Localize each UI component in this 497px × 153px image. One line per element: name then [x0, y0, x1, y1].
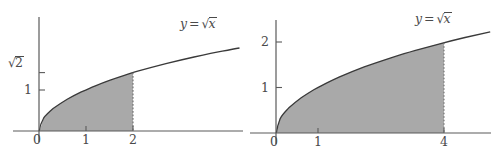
curve-label-equals: = — [422, 11, 436, 26]
right-panel-plot — [247, 0, 497, 153]
right-xtick-label-1: 1 — [314, 136, 322, 149]
sqrt-area-figure: √2 1 0 1 2 y=√x — [0, 0, 497, 153]
radicand: 2 — [15, 56, 24, 70]
right-curve-annotation: y=√x — [415, 12, 452, 26]
curve-label-lhs: y — [180, 16, 187, 31]
left-xtick-label-1: 1 — [82, 134, 90, 147]
left-shaded-region — [39, 73, 133, 131]
chart-panel-right: 2 1 0 1 4 y=√x — [247, 0, 497, 153]
curve-label-lhs: y — [415, 11, 422, 26]
right-xtick-label-0: 0 — [270, 136, 278, 149]
curve-label-equals: = — [187, 16, 201, 31]
left-ytick-label-sqrt2: √2 — [8, 56, 24, 70]
left-ytick-label-1: 1 — [24, 84, 32, 97]
left-xtick-label-2: 2 — [129, 134, 137, 147]
right-shaded-region — [276, 43, 444, 133]
radicand: x — [444, 12, 452, 26]
right-ytick-label-1: 1 — [261, 82, 269, 95]
left-xtick-label-0: 0 — [33, 134, 41, 147]
radicand: x — [209, 17, 217, 31]
right-ytick-label-2: 2 — [261, 36, 269, 49]
right-xtick-label-4: 4 — [440, 136, 448, 149]
left-curve-annotation: y=√x — [180, 17, 217, 31]
chart-panel-left: √2 1 0 1 2 y=√x — [0, 0, 247, 153]
